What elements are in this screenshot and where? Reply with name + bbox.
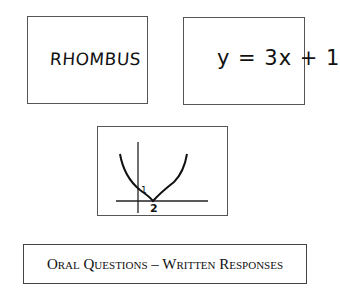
graph-card: 1 2 bbox=[97, 126, 228, 216]
equation-card: y = 3x + 1 bbox=[183, 17, 305, 105]
handwritten-equation: y = 3x + 1 bbox=[217, 46, 340, 70]
vertex-x-label: 2 bbox=[150, 202, 158, 215]
y-intercept-label: 1 bbox=[141, 185, 147, 195]
parabola-curve bbox=[120, 154, 187, 201]
word-card-rhombus: RHOMBUS bbox=[27, 16, 148, 104]
parabola-graph: 1 2 bbox=[98, 127, 229, 217]
banner-title: Oral Questions – Written Responses bbox=[23, 244, 307, 284]
handwritten-word: RHOMBUS bbox=[49, 49, 141, 69]
banner-text: Oral Questions – Written Responses bbox=[47, 256, 283, 273]
